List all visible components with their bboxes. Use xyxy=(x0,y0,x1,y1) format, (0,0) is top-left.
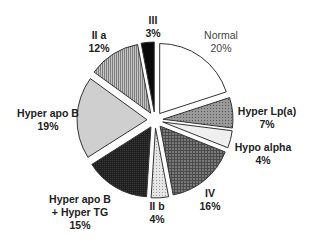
label-iib: II b 4% xyxy=(142,200,172,226)
label-apobtg-name1: Hyper apo B xyxy=(45,193,115,206)
label-iv: IV 16% xyxy=(195,187,225,213)
label-normal: Normal 20% xyxy=(196,29,246,55)
label-iv-name: IV xyxy=(195,187,225,200)
label-normal-pct: 20% xyxy=(196,42,246,55)
label-iib-name: II b xyxy=(142,200,172,213)
label-hypo-pct: 4% xyxy=(230,154,296,167)
label-iia: II a 12% xyxy=(84,29,114,55)
label-lpa-pct: 7% xyxy=(232,118,302,131)
label-iii-pct: 3% xyxy=(138,27,168,40)
label-lpa-name: Hyper Lp(a) xyxy=(232,105,302,118)
label-iia-pct: 12% xyxy=(84,42,114,55)
label-iii: III 3% xyxy=(138,14,168,40)
label-iib-pct: 4% xyxy=(142,213,172,226)
label-apobtg-pct: 15% xyxy=(45,219,115,232)
label-apob-name: Hyper apo B xyxy=(13,107,83,120)
label-apob-pct: 19% xyxy=(13,120,83,133)
label-hypo-name: Hypo alpha xyxy=(230,141,296,154)
label-apobtg-name2: + Hyper TG xyxy=(45,206,115,219)
label-normal-name: Normal xyxy=(196,29,246,42)
pie-slices xyxy=(77,42,233,198)
label-hyper-lpa: Hyper Lp(a) 7% xyxy=(232,105,302,131)
label-hyper-apob: Hyper apo B 19% xyxy=(13,107,83,133)
label-iia-name: II a xyxy=(84,29,114,42)
label-hyper-apob-tg: Hyper apo B + Hyper TG 15% xyxy=(45,193,115,232)
label-iv-pct: 16% xyxy=(195,200,225,213)
label-hypo-alpha: Hypo alpha 4% xyxy=(230,141,296,167)
label-iii-name: III xyxy=(138,14,168,27)
